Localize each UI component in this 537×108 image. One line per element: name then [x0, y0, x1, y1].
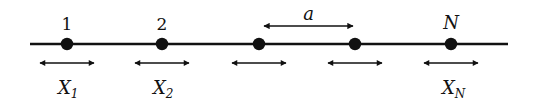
displacement-label: XN	[440, 77, 466, 101]
particle-5: NXN	[424, 12, 478, 101]
particle-4	[328, 38, 382, 63]
particles: 1X12X2NXN	[40, 12, 478, 101]
displacement-label: X2	[151, 77, 173, 101]
particle-dot	[61, 38, 73, 50]
particle-3	[232, 38, 286, 63]
displacement-label: X1	[56, 77, 78, 101]
spacing-label: a	[303, 3, 314, 24]
particle-2: 2X2	[135, 14, 189, 101]
particle-dot	[445, 38, 457, 50]
particle-chain-diagram: a 1X12X2NXN	[0, 0, 537, 108]
particle-1: 1X1	[40, 14, 94, 101]
particle-dot	[253, 38, 265, 50]
particle-dot	[349, 38, 361, 50]
particle-index-label: 2	[157, 14, 168, 34]
particle-index-label: 1	[62, 14, 73, 34]
spacing-arrow: a	[264, 3, 353, 26]
particle-index-label: N	[442, 12, 460, 33]
particle-dot	[156, 38, 168, 50]
